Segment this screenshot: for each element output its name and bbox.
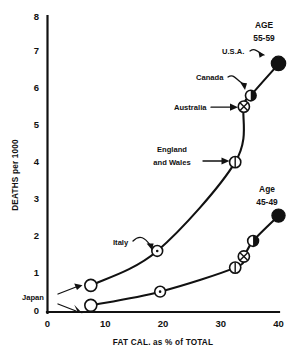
data-point-canada-45-49[interactable] — [248, 236, 259, 247]
y-tick-label: 1 — [34, 267, 40, 278]
data-point-england-and-wales-55-59[interactable] — [230, 157, 241, 168]
annotation-age-45-49-line2: 45-49 — [256, 197, 278, 207]
chart-container: 0 1 2 3 4 5 6 7 8 0 10 20 30 40 FAT CAL.… — [0, 0, 293, 357]
x-tick-label: 0 — [45, 318, 50, 329]
annotation-japan-leader-upper — [58, 287, 76, 294]
y-tick-label: 8 — [34, 11, 39, 22]
x-tick-label: 20 — [158, 318, 169, 329]
annotation-age-45-49-line1: Age — [259, 184, 275, 194]
y-tick-label: 3 — [34, 193, 39, 204]
annotation-usa-arrowhead — [258, 52, 264, 58]
x-axis-title: FAT CAL. as % of TOTAL — [113, 338, 213, 347]
annotation-england-and-wales: England and Wales — [153, 145, 229, 167]
annotation-age-55-59-line1: AGE — [255, 20, 274, 30]
annotation-canada-leader — [228, 76, 242, 83]
annotation-canada-arrowhead — [240, 82, 247, 90]
annotation-italy-label: Italy — [113, 238, 129, 247]
y-tick-label: 6 — [34, 82, 39, 93]
x-tick-label: 10 — [100, 318, 111, 329]
annotation-japan-label: Japan — [22, 293, 44, 302]
annotation-usa: U.S.A. — [222, 47, 264, 58]
data-point-japan-45-49[interactable] — [85, 299, 97, 311]
data-point-italy-55-59[interactable] — [152, 246, 163, 257]
annotation-usa-label: U.S.A. — [222, 47, 244, 56]
annotation-japan-leader-lower — [58, 304, 76, 311]
x-tick-label: 30 — [216, 318, 227, 329]
data-point-usa-55-59[interactable] — [271, 56, 285, 70]
data-point-italy-45-49[interactable] — [155, 286, 166, 297]
annotation-canada: Canada — [196, 73, 247, 90]
y-axis-title: DEATHS per 1000 — [11, 139, 20, 211]
data-point-japan-55-59[interactable] — [85, 279, 97, 291]
data-point-australia-55-59[interactable] — [238, 101, 249, 112]
y-tick-label: 4 — [34, 156, 40, 167]
y-tick-label: 2 — [34, 230, 39, 241]
annotation-australia-label: Australia — [174, 103, 207, 112]
data-point-canada-55-59[interactable] — [245, 90, 256, 101]
series-line-age-45-49 — [91, 216, 279, 306]
data-point-england-and-wales-45-49[interactable] — [230, 262, 241, 273]
annotation-age-55-59-line2: 55-59 — [253, 33, 275, 43]
annotation-canada-label: Canada — [196, 73, 224, 82]
annotation-england-arrowhead — [222, 157, 230, 164]
annotation-australia: Australia — [174, 103, 238, 112]
x-axis-ticks: 0 10 20 30 40 — [45, 318, 284, 329]
y-tick-label: 7 — [34, 45, 39, 56]
x-tick-label: 40 — [273, 318, 284, 329]
y-axis-ticks: 0 1 2 3 4 5 6 7 8 — [34, 11, 40, 316]
annotation-age-55-59: AGE 55-59 — [253, 20, 275, 43]
annotation-italy: Italy — [113, 237, 154, 250]
annotation-japan: Japan — [22, 283, 83, 313]
y-tick-label: 0 — [34, 305, 39, 316]
scatter-line-chart: 0 1 2 3 4 5 6 7 8 0 10 20 30 40 FAT CAL.… — [0, 0, 293, 357]
data-point-australia-45-49[interactable] — [238, 251, 249, 262]
annotation-australia-arrowhead — [230, 104, 238, 111]
annotation-england-line2: and Wales — [153, 158, 190, 167]
y-tick-label: 5 — [34, 119, 40, 130]
data-point-usa-45-49[interactable] — [272, 209, 285, 222]
annotation-england-line1: England — [157, 145, 187, 154]
annotation-age-45-49: Age 45-49 — [256, 184, 278, 207]
